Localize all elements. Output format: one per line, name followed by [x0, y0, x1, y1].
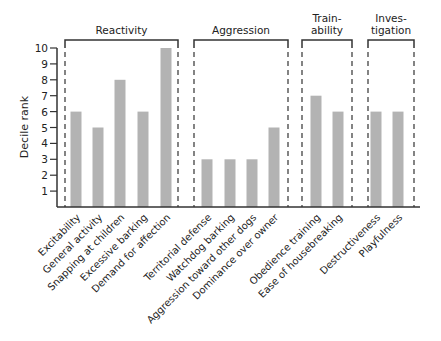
bar — [393, 112, 404, 207]
group-trainability: Train-ability — [302, 12, 352, 207]
y-tick-label: 5 — [41, 122, 48, 134]
y-tick-label: 7 — [41, 90, 48, 102]
group-label: Inves- — [375, 12, 407, 24]
y-tick-label: 3 — [41, 153, 48, 165]
x-axis-labels: ExcitabilityGeneral activitySnapping at … — [36, 211, 405, 326]
y-tick-label: 2 — [41, 169, 48, 181]
y-tick-label: 9 — [41, 58, 48, 70]
bar — [161, 48, 172, 207]
bar — [138, 112, 149, 207]
y-tick-label: 6 — [41, 106, 48, 118]
bar — [202, 159, 213, 207]
bar — [71, 112, 82, 207]
y-tick-label: 4 — [41, 137, 48, 149]
bars — [71, 48, 404, 207]
bar — [269, 128, 280, 208]
y-axis-label: Decile rank — [18, 95, 31, 158]
group-label: tigation — [371, 24, 411, 36]
bar — [371, 112, 382, 207]
group-label: Train- — [312, 12, 342, 24]
bar — [311, 96, 322, 207]
group-label: ability — [311, 24, 343, 36]
group-label: Reactivity — [96, 24, 148, 36]
bar — [93, 128, 104, 208]
group-label: Aggression — [212, 24, 270, 36]
bar — [115, 80, 126, 207]
y-axis: 12345678910 — [35, 42, 57, 207]
bar — [225, 159, 236, 207]
y-tick-label: 8 — [41, 74, 48, 86]
bar — [247, 159, 258, 207]
y-tick-label: 10 — [35, 42, 48, 54]
y-tick-label: 1 — [41, 185, 48, 197]
bar-chart: 12345678910 Decile rank ReactivityAggres… — [0, 0, 441, 341]
bar — [333, 112, 344, 207]
